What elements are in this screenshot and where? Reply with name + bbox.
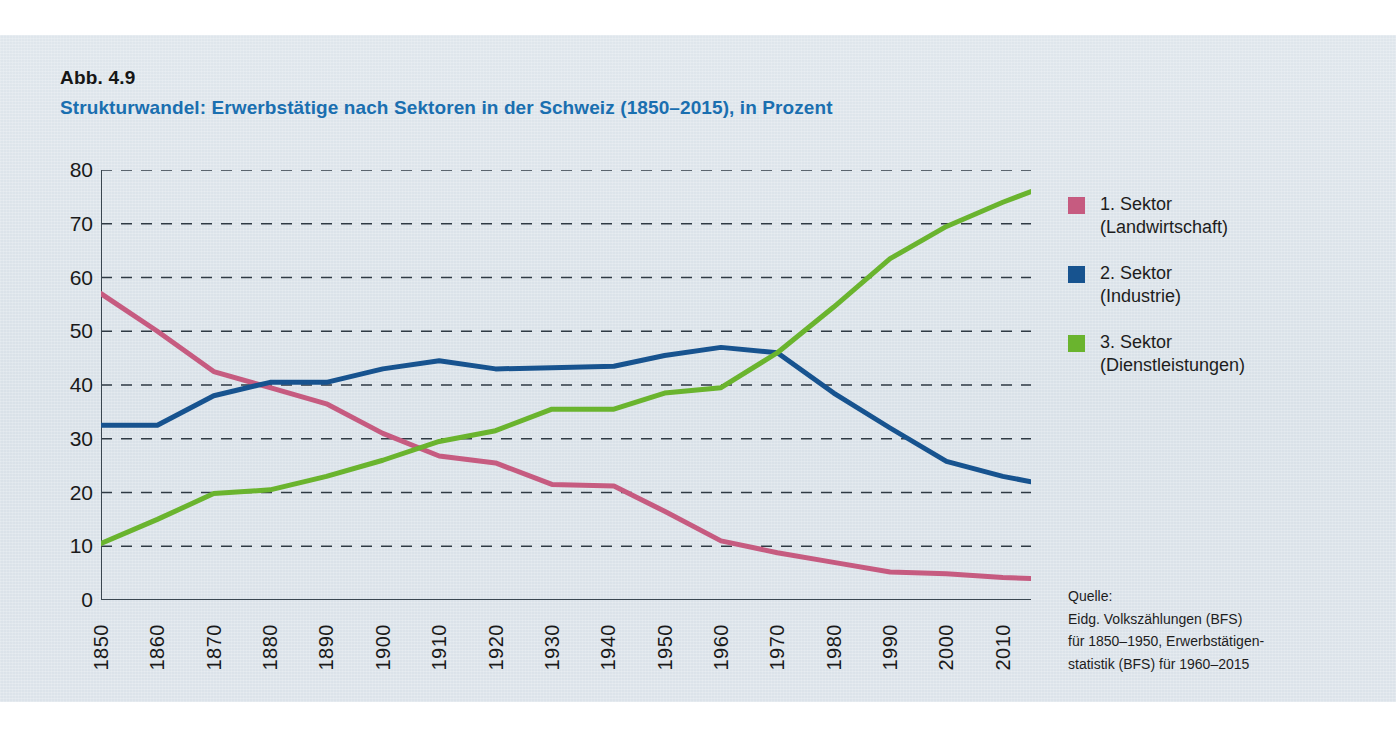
y-axis-tick-label: 20: [47, 481, 93, 505]
x-axis-tick-label: 1990: [879, 624, 902, 671]
x-axis-tick-label: 1960: [710, 624, 733, 671]
plot-wrapper: 01020304050607080 1850186018701880189019…: [101, 170, 1031, 635]
series-line: [101, 294, 1031, 579]
legend-item-label: 2. Sektor: [1100, 262, 1368, 285]
legend-item-sublabel: (Dienstleistungen): [1100, 354, 1368, 377]
source-note: Quelle: Eidg. Volkszählungen (BFS) für 1…: [1068, 585, 1378, 676]
legend-swatch-icon: [1068, 335, 1085, 352]
figure-title: Strukturwandel: Erwerbstätige nach Sekto…: [60, 97, 833, 119]
y-axis-tick-label: 40: [47, 373, 93, 397]
chart-legend: 1. Sektor (Landwirtschaft) 2. Sektor (In…: [1068, 193, 1368, 399]
y-axis-tick-label: 80: [47, 158, 93, 182]
legend-item[interactable]: 2. Sektor (Industrie): [1068, 262, 1368, 309]
x-axis-tick-label: 1940: [597, 624, 620, 671]
y-axis-tick-label: 70: [47, 212, 93, 236]
legend-item-label: 3. Sektor: [1100, 331, 1368, 354]
x-axis-tick-label: 1850: [90, 624, 113, 671]
source-label: Quelle:: [1068, 585, 1378, 608]
legend-item-label: 1. Sektor: [1100, 193, 1368, 216]
x-axis-tick-label: 1950: [654, 624, 677, 671]
line-chart-svg: [101, 170, 1031, 600]
source-line-2: für 1850–1950, Erwerbstätigen-: [1068, 630, 1378, 653]
y-axis-tick-label: 10: [47, 534, 93, 558]
x-axis-tick-label: 1920: [485, 624, 508, 671]
legend-item[interactable]: 3. Sektor (Dienstleistungen): [1068, 331, 1368, 378]
x-axis-tick-label: 1910: [428, 624, 451, 671]
legend-swatch-icon: [1068, 266, 1085, 283]
x-axis-tick-label: 1860: [146, 624, 169, 671]
x-axis-tick-label: 2000: [935, 624, 958, 671]
y-axis-labels: 01020304050607080: [41, 170, 93, 600]
legend-swatch-icon: [1068, 197, 1085, 214]
legend-item-sublabel: (Landwirtschaft): [1100, 216, 1368, 239]
source-line-1: Eidg. Volkszählungen (BFS): [1068, 608, 1378, 631]
x-axis-tick-label: 1870: [203, 624, 226, 671]
y-axis-tick-label: 0: [47, 588, 93, 612]
x-axis-tick-label: 1970: [766, 624, 789, 671]
legend-item[interactable]: 1. Sektor (Landwirtschaft): [1068, 193, 1368, 240]
y-axis-tick-label: 50: [47, 319, 93, 343]
series-line: [101, 347, 1031, 481]
x-axis-labels: 1850186018701880189019001910192019301940…: [101, 606, 1031, 736]
x-axis-tick-label: 1900: [372, 624, 395, 671]
x-axis-tick-label: 1890: [315, 624, 338, 671]
x-axis-tick-label: 1930: [541, 624, 564, 671]
legend-item-sublabel: (Industrie): [1100, 285, 1368, 308]
source-line-3: statistik (BFS) für 1960–2015: [1068, 653, 1378, 676]
plot-area: [101, 170, 1031, 600]
y-axis-tick-label: 60: [47, 266, 93, 290]
x-axis-tick-label: 2010: [992, 624, 1015, 671]
figure-panel: Abb. 4.9 Strukturwandel: Erwerbstätige n…: [0, 35, 1396, 702]
x-axis-tick-label: 1880: [259, 624, 282, 671]
figure-number: Abb. 4.9: [60, 67, 136, 89]
y-axis-tick-label: 30: [47, 427, 93, 451]
x-axis-tick-label: 1980: [823, 624, 846, 671]
